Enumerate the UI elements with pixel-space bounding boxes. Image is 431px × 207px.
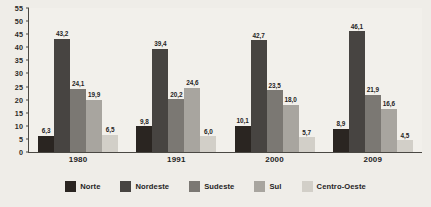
bar-value-label: 6,5 — [106, 126, 115, 133]
legend-item: Sudeste — [189, 181, 234, 192]
bar — [251, 40, 267, 152]
bar — [38, 136, 54, 152]
bar-value-label: 5,7 — [302, 129, 311, 136]
bar — [267, 90, 283, 152]
bar-value-label: 21,9 — [367, 86, 379, 93]
legend-swatch-icon — [302, 181, 313, 192]
bar-item: 10,1 — [235, 8, 251, 152]
bar-item: 24,6 — [184, 8, 200, 152]
bar-item: 5,7 — [299, 8, 315, 152]
legend-label: Norte — [80, 182, 100, 191]
y-axis-tick-label: 0 — [19, 148, 23, 157]
bar-item: 19,9 — [86, 8, 102, 152]
bar-item: 4,5 — [397, 8, 413, 152]
bar — [70, 89, 86, 152]
legend-swatch-icon — [254, 181, 265, 192]
bar-value-label: 8,9 — [337, 120, 346, 127]
y-axis-tick-label: 25 — [15, 82, 23, 91]
bar-item: 43,2 — [54, 8, 70, 152]
y-axis-tick-label: 45 — [15, 30, 23, 39]
bar-item: 16,6 — [381, 8, 397, 152]
chart-legend: NorteNordesteSudesteSulCentro-Oeste — [0, 176, 431, 196]
bar-value-label: 6,0 — [204, 128, 213, 135]
bar-item: 24,1 — [70, 8, 86, 152]
x-axis-label: 2009 — [364, 155, 383, 164]
bar-item: 9,8 — [136, 8, 152, 152]
legend-label: Sudeste — [204, 182, 234, 191]
x-axis-label: 2000 — [265, 155, 284, 164]
bar-chart: 0510152025303540455055 6,343,224,119,96,… — [0, 0, 431, 207]
bar-item: 18,0 — [283, 8, 299, 152]
bar — [184, 88, 200, 152]
bar-value-label: 46,1 — [351, 23, 363, 30]
y-axis-tick-label: 30 — [15, 69, 23, 78]
bar — [397, 140, 413, 152]
bar-value-label: 6,3 — [42, 127, 51, 134]
legend-label: Sul — [269, 182, 281, 191]
bar-value-label: 9,8 — [140, 118, 149, 125]
bar-group: 6,343,224,119,96,5 — [38, 8, 118, 152]
legend-item: Sul — [254, 181, 281, 192]
bar — [381, 109, 397, 152]
bar-item: 6,5 — [102, 8, 118, 152]
y-axis-tick-label: 50 — [15, 17, 23, 26]
bar-item: 46,1 — [349, 8, 365, 152]
bar-value-label: 43,2 — [56, 30, 68, 37]
bar — [299, 137, 315, 152]
x-axis-labels: 1980199120002009 — [29, 155, 422, 169]
y-axis-tick-label: 10 — [15, 121, 23, 130]
bar-value-label: 4,5 — [401, 132, 410, 139]
bar-value-label: 10,1 — [237, 117, 249, 124]
bar-item: 20,2 — [168, 8, 184, 152]
bar-group: 8,946,121,916,64,5 — [333, 8, 413, 152]
bar-item: 8,9 — [333, 8, 349, 152]
bar-item: 23,5 — [267, 8, 283, 152]
bar — [86, 100, 102, 152]
y-axis-tick-label: 15 — [15, 108, 23, 117]
bar-item: 6,3 — [38, 8, 54, 152]
y-axis-tick-label: 35 — [15, 56, 23, 65]
legend-item: Norte — [65, 181, 100, 192]
x-axis-label: 1980 — [69, 155, 88, 164]
y-axis-tick-label: 40 — [15, 43, 23, 52]
bar — [333, 129, 349, 152]
bar — [365, 95, 381, 152]
legend-item: Centro-Oeste — [302, 181, 366, 192]
bar — [349, 31, 365, 152]
y-axis-tick-label: 5 — [19, 134, 23, 143]
bars-container: 6,343,224,119,96,59,839,420,224,66,010,1… — [29, 8, 422, 152]
x-axis-label: 1991 — [167, 155, 186, 164]
legend-item: Nordeste — [120, 181, 169, 192]
bar — [235, 126, 251, 152]
bar-item: 39,4 — [152, 8, 168, 152]
y-axis-tick-label: 55 — [15, 4, 23, 13]
bar-value-label: 24,1 — [72, 80, 84, 87]
bar — [136, 126, 152, 152]
bar-item: 6,0 — [200, 8, 216, 152]
bar — [54, 39, 70, 152]
bar-item: 21,9 — [365, 8, 381, 152]
bar-group: 9,839,420,224,66,0 — [136, 8, 216, 152]
legend-swatch-icon — [120, 181, 131, 192]
bar-value-label: 39,4 — [154, 40, 166, 47]
bar — [152, 49, 168, 152]
legend-label: Nordeste — [135, 182, 169, 191]
legend-label: Centro-Oeste — [317, 182, 366, 191]
bar-value-label: 24,6 — [186, 79, 198, 86]
y-axis: 0510152025303540455055 — [0, 8, 28, 153]
bar — [200, 136, 216, 152]
legend-swatch-icon — [189, 181, 200, 192]
bar-group: 10,142,723,518,05,7 — [235, 8, 315, 152]
bar — [168, 99, 184, 152]
legend-swatch-icon — [65, 181, 76, 192]
bar-value-label: 20,2 — [170, 91, 182, 98]
bar-value-label: 19,9 — [88, 91, 100, 98]
bar-value-label: 23,5 — [269, 82, 281, 89]
bar-value-label: 18,0 — [285, 96, 297, 103]
bar — [283, 105, 299, 152]
bar — [102, 135, 118, 152]
bar-item: 42,7 — [251, 8, 267, 152]
bar-value-label: 16,6 — [383, 100, 395, 107]
bar-value-label: 42,7 — [253, 32, 265, 39]
y-axis-tick-label: 20 — [15, 95, 23, 104]
